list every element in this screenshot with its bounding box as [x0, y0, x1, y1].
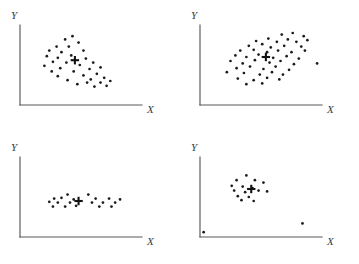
data-point — [72, 70, 75, 73]
data-point — [245, 56, 248, 59]
data-point — [243, 72, 246, 75]
data-point — [86, 81, 89, 84]
data-point — [119, 198, 122, 201]
data-point — [98, 205, 101, 208]
data-point — [60, 196, 63, 199]
horizontal-band-scatter: YX — [0, 132, 179, 264]
y-axis-label: Y — [11, 9, 19, 21]
data-point — [279, 60, 282, 63]
data-point — [82, 74, 85, 77]
data-point — [64, 205, 67, 208]
data-point — [105, 84, 108, 87]
data-point — [114, 201, 117, 204]
data-point-group — [43, 35, 112, 88]
centroid-cross-marker — [247, 185, 255, 193]
data-point — [52, 60, 55, 63]
negative-correlation-scatter: YX — [0, 0, 179, 132]
data-point — [56, 201, 59, 204]
data-point — [252, 200, 255, 203]
data-point — [45, 55, 48, 58]
data-point — [88, 68, 91, 71]
data-point — [280, 33, 283, 36]
data-point — [235, 67, 238, 70]
data-point — [252, 79, 255, 82]
scatter-panel-bottom-right: YX — [180, 132, 359, 264]
data-point — [306, 39, 309, 42]
data-point — [48, 200, 51, 203]
data-point — [297, 57, 300, 60]
data-point — [266, 76, 269, 79]
y-axis-label: Y — [191, 141, 199, 153]
y-axis-label: Y — [191, 9, 199, 21]
data-point — [293, 63, 296, 66]
data-point — [59, 67, 62, 70]
data-point — [53, 197, 56, 200]
data-point — [285, 55, 288, 58]
data-point — [274, 65, 277, 68]
data-point — [108, 197, 111, 200]
x-axis-label: X — [326, 103, 335, 115]
data-point — [239, 49, 242, 52]
data-point — [254, 59, 257, 62]
data-point — [255, 40, 258, 43]
data-point — [241, 62, 244, 65]
data-point — [78, 64, 81, 67]
data-point — [240, 199, 243, 202]
data-point — [77, 41, 80, 44]
data-point — [87, 193, 90, 196]
x-axis-label: X — [146, 103, 155, 115]
data-point — [302, 35, 305, 38]
data-point — [316, 62, 319, 65]
data-point — [71, 35, 74, 38]
data-point — [96, 72, 99, 75]
data-point — [65, 61, 68, 64]
x-axis-label: X — [146, 235, 155, 247]
data-point — [102, 201, 105, 204]
data-point — [50, 70, 53, 73]
data-point — [94, 197, 97, 200]
data-point — [56, 75, 59, 78]
data-point — [244, 191, 247, 194]
data-point — [64, 38, 67, 41]
data-point — [262, 68, 265, 71]
data-point — [89, 78, 92, 81]
data-point — [257, 189, 260, 192]
data-point — [249, 65, 252, 68]
data-point — [277, 49, 280, 52]
data-point — [236, 77, 239, 80]
data-point — [70, 54, 73, 57]
data-point — [60, 51, 63, 54]
data-point — [278, 78, 281, 81]
data-point — [272, 56, 275, 59]
data-point — [109, 80, 112, 83]
data-point — [93, 85, 96, 88]
data-point — [43, 64, 46, 67]
data-point — [103, 76, 106, 79]
data-point — [291, 32, 294, 35]
centroid-cross-marker — [71, 56, 79, 64]
data-point — [236, 195, 239, 198]
data-point — [304, 49, 307, 52]
data-point — [235, 179, 238, 182]
data-point — [252, 48, 255, 51]
data-point — [301, 222, 304, 225]
data-point — [66, 79, 69, 82]
data-point — [99, 81, 102, 84]
data-point — [230, 184, 233, 187]
data-point — [283, 44, 286, 47]
data-point — [261, 43, 264, 46]
data-point — [245, 83, 248, 86]
data-point — [262, 181, 265, 184]
data-point — [99, 66, 102, 69]
data-point — [257, 53, 260, 56]
data-point — [67, 45, 70, 48]
data-point — [229, 60, 232, 63]
data-point — [76, 83, 79, 86]
data-point — [202, 231, 205, 234]
centroid-cross-marker — [262, 53, 270, 61]
data-point — [233, 189, 236, 192]
data-point — [110, 205, 113, 208]
data-point — [234, 54, 237, 57]
data-point — [91, 201, 94, 204]
data-point — [295, 40, 298, 43]
